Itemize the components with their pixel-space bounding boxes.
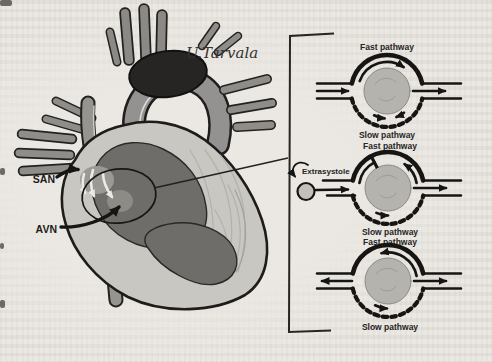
node-circle-3	[365, 258, 411, 304]
signature: U.Tarvala	[186, 44, 258, 62]
node-circle-2	[365, 165, 411, 211]
slow-collide-arrow-a	[374, 115, 385, 118]
slow-conduction-arrow-3	[375, 305, 387, 308]
fast-pathway-label-2: Fast pathway	[363, 141, 417, 151]
san-label: SAN	[33, 173, 55, 185]
fast-pathway-label-1: Fast pathway	[360, 42, 414, 52]
slow-conduction-arrow-2	[376, 213, 388, 216]
figure-page: SAN AVN U.Tarvala Fast pathway	[0, 0, 492, 362]
slow-pathway-label-1: Slow pathway	[359, 130, 415, 140]
diagram-reentry: Fast pathway Slow pathway	[317, 237, 461, 333]
entry-arrow-2	[316, 190, 348, 191]
slow-collide-arrow-b	[397, 113, 404, 117]
avn-label: AVN	[36, 223, 57, 235]
slow-pathway-label-3: Slow pathway	[362, 322, 418, 332]
extrasystole-label: Extrasystole	[302, 167, 350, 176]
diagram-extrasystole: Fast pathway Extrasystole Slow pathway	[293, 141, 461, 238]
diagram-normal-beat: Fast pathway Slow pathway	[317, 42, 461, 140]
slow-pathway-label-2: Slow pathway	[362, 227, 418, 237]
node-circle-1	[364, 68, 410, 114]
extrasystole-circle	[298, 183, 315, 200]
figure-canvas: SAN AVN U.Tarvala Fast pathway	[0, 0, 492, 362]
